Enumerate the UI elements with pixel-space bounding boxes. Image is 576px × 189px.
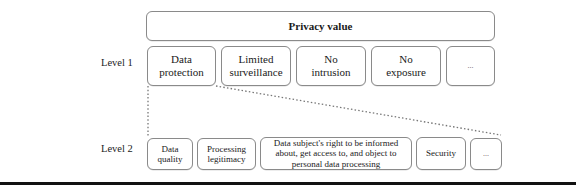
- node-label: Data subject's right to be informed abou…: [274, 138, 398, 169]
- node-label: Processing legitimacy: [207, 144, 246, 165]
- level2-node-data-quality: Data quality: [147, 138, 193, 170]
- node-label: Security: [426, 148, 456, 158]
- ellipsis-label: ...: [483, 149, 489, 158]
- level2-node-more: ...: [470, 138, 502, 170]
- level2-node-processing-legitimacy: Processing legitimacy: [197, 138, 256, 170]
- bottom-rule: [0, 182, 576, 185]
- node-label: Data quality: [158, 144, 183, 165]
- level2-node-security: Security: [416, 137, 466, 170]
- level2-node-data-subject-rights: Data subject's right to be informed abou…: [260, 137, 412, 170]
- connector-right: [216, 86, 501, 135]
